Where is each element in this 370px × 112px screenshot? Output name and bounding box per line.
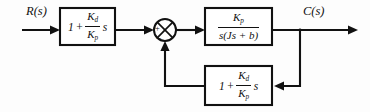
plant-numerator: Kp [232,12,245,25]
summing-junction-minus-sign: − [156,34,162,44]
feedback-block-expression: 1 + Kd Kp s [205,66,272,105]
wire-output-tap-down [274,30,300,91]
plant-block-expression: Kp s(Js + b) [205,8,272,45]
feedforward-numerator: Kd [86,11,99,24]
block-diagram: R(s) C(s) + − 1 + Kd Kp s Kp s(Js + b) 1… [0,0,370,112]
summing-junction-plus-sign: + [155,24,160,33]
feedback-numerator-subscript: d [245,75,249,83]
feedforward-denominator: Kp [86,29,99,42]
feedforward-lead-term: 1 [68,21,74,33]
feedback-fraction: Kd Kp [236,70,251,101]
feedforward-block-expression: 1 + Kd Kp s [60,8,115,45]
plant-numerator-subscript: p [240,17,244,25]
wire-feedforward-to-sum [115,25,154,34]
feedback-numerator: Kd [237,70,250,83]
feedforward-fraction: Kd Kp [85,11,100,42]
wire-input-to-feedforward [22,25,60,34]
feedforward-operator: + [76,21,83,33]
feedback-lead-term: 1 [219,80,225,92]
feedforward-denominator-subscript: p [94,34,98,42]
output-signal-label: C(s) [303,5,325,18]
plant-fraction-bar [218,27,259,28]
plant-denominator: s(Js + b) [218,30,259,41]
feedback-denominator-subscript: p [245,93,249,101]
feedback-trailing-term: s [254,80,258,92]
feedback-denominator: Kp [237,88,250,101]
wire-sum-to-plant [176,25,205,34]
wire-feedback-to-sum [160,41,205,86]
wire-plant-to-output [272,25,358,34]
feedback-operator: + [227,80,234,92]
input-signal-label: R(s) [26,5,47,18]
feedforward-numerator-subscript: d [94,16,98,24]
feedforward-trailing-term: s [103,21,107,33]
plant-fraction: Kp s(Js + b) [218,12,259,40]
